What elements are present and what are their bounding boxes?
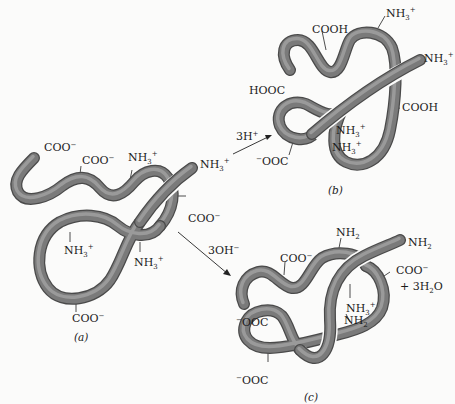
label-nh3-plus: NH3+ <box>134 255 164 271</box>
label-3h2o: + 3H2O <box>400 280 443 295</box>
panel-c-caption: (c) <box>304 391 318 403</box>
label-nh3-plus: NH3+ <box>424 51 454 67</box>
label-coo-minus: COO− <box>82 154 114 167</box>
label-coo-minus: COO− <box>72 312 104 325</box>
panel-a: COO− COO− NH3+ NH3+ COO− NH3+ NH3+ COO− … <box>15 141 229 343</box>
arrow-base: 3OH− <box>178 232 240 276</box>
panel-c: NH2 NH2 COO− COO− + 3H2O NH3+ NH2 −OOC −… <box>236 226 443 403</box>
label-nh3-plus: NH3+ <box>336 123 366 139</box>
label-coo-minus: COO− <box>396 264 428 277</box>
label-nh3-plus: NH3+ <box>332 140 362 156</box>
label-nh3-plus: NH3+ <box>128 150 158 166</box>
label-3oh-minus: 3OH− <box>208 244 240 257</box>
label-nh3-plus: NH3+ <box>386 6 416 22</box>
label-ooc-minus: −OOC <box>236 374 268 387</box>
label-nh3-plus: NH3+ <box>64 243 94 259</box>
label-coo-minus: COO− <box>280 252 312 265</box>
label-cooh: COOH <box>402 101 438 114</box>
protein-denaturation-diagram: COO− COO− NH3+ NH3+ COO− NH3+ NH3+ COO− … <box>0 0 455 404</box>
label-nh2: NH2 <box>336 226 360 241</box>
label-coo-minus: COO− <box>44 141 76 154</box>
panel-a-caption: (a) <box>74 331 88 343</box>
panel-b-caption: (b) <box>328 184 343 196</box>
label-3h-plus: 3H+ <box>236 130 259 143</box>
label-ooc-minus: −OOC <box>256 155 288 168</box>
label-nh2: NH2 <box>408 236 432 251</box>
arrow-acid: 3H+ <box>233 130 272 154</box>
label-cooh: COOH <box>312 23 348 36</box>
label-coo-minus: COO− <box>188 212 220 225</box>
label-hooc: HOOC <box>249 84 285 97</box>
label-nh2: NH2 <box>344 314 368 329</box>
panel-b: COOH NH3+ NH3+ HOOC COOH NH3+ NH3+ −OOC … <box>249 6 454 196</box>
label-nh3-plus: NH3+ <box>200 157 230 173</box>
